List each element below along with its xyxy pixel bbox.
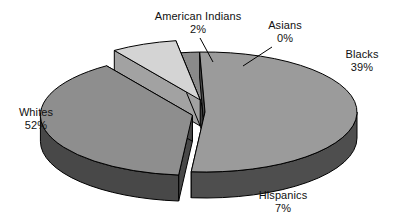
slice-label-blacks: Blacks	[346, 48, 379, 60]
slice-value-american-indians: 2%	[190, 23, 206, 35]
pie-slices-layer	[40, 41, 357, 201]
slice-label-asians: Asians	[268, 19, 302, 31]
slice-label-whites: Whites	[19, 106, 54, 118]
pie-chart: Whites52%Blacks39%Hispanics7%American In…	[0, 0, 401, 223]
slice-value-asians: 0%	[277, 32, 293, 44]
pie-chart-canvas: Whites52%Blacks39%Hispanics7%American In…	[0, 0, 401, 223]
slice-label-hispanics: Hispanics	[259, 189, 308, 201]
slice-value-blacks: 39%	[351, 61, 373, 73]
slice-value-hispanics: 7%	[275, 202, 291, 214]
slice-label-american-indians: American Indians	[155, 10, 242, 22]
slice-value-whites: 52%	[25, 119, 47, 131]
pie-slice-whites	[191, 52, 357, 198]
